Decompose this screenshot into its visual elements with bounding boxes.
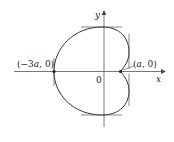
y-axis-label: y	[94, 10, 101, 20]
label-left-point: (−3a, 0)	[17, 59, 54, 69]
label-cusp-point: (a, 0)	[133, 59, 157, 69]
origin-label: 0	[96, 75, 102, 85]
point-cusp	[119, 70, 122, 73]
limacon-curve	[54, 27, 129, 115]
x-axis-label: x	[156, 74, 161, 84]
limacon-diagram: (−3a, 0) (a, 0) 0 x y	[0, 0, 174, 142]
point-left	[52, 70, 55, 73]
